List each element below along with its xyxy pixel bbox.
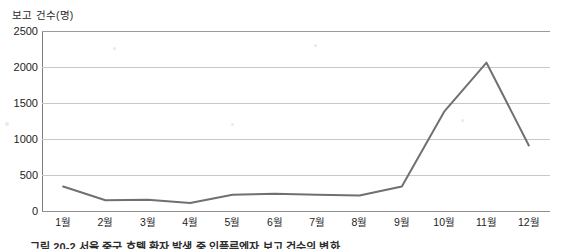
- x-tick-label-3: 3월: [140, 214, 156, 229]
- gridline-0: [42, 211, 550, 212]
- x-tick-label-11: 11월: [476, 214, 497, 229]
- x-tick-label-12: 12월: [518, 214, 540, 229]
- x-tick-label-5: 5월: [225, 214, 241, 229]
- y-tick-label-2000: 2000: [2, 61, 38, 73]
- y-tick-label-0: 0: [2, 205, 38, 217]
- x-tick-label-4: 4월: [182, 214, 198, 229]
- x-tick-label-9: 9월: [394, 214, 410, 229]
- y-tick-label-2500: 2500: [2, 25, 38, 37]
- x-tick-label-6: 6월: [267, 214, 283, 229]
- x-tick-label-8: 8월: [352, 214, 368, 229]
- data-series-line: [42, 31, 550, 211]
- plot-area: [42, 31, 550, 211]
- y-tick-label-1500: 1500: [2, 97, 38, 109]
- x-tick-label-1: 1월: [55, 214, 71, 229]
- y-axis-tick-labels: 05001000150020002500: [0, 31, 38, 211]
- chart-figure: 보고 건수(명) 05001000150020002500 1월2월3월4월5월…: [0, 0, 563, 249]
- x-tick-label-7: 7월: [309, 214, 325, 229]
- x-tick-label-10: 10월: [433, 214, 455, 229]
- x-axis-tick-labels: 1월2월3월4월5월6월7월8월9월10월11월12월: [42, 214, 550, 230]
- figure-caption: 그림 20-2 서울 중구 호텔 환자 발생 중 인플루엔자 보고 건수의 변화: [30, 238, 530, 249]
- y-axis-title: 보고 건수(명): [12, 7, 74, 22]
- y-tick-label-500: 500: [2, 169, 38, 181]
- y-tick-label-1000: 1000: [2, 133, 38, 145]
- x-tick-label-2: 2월: [98, 214, 114, 229]
